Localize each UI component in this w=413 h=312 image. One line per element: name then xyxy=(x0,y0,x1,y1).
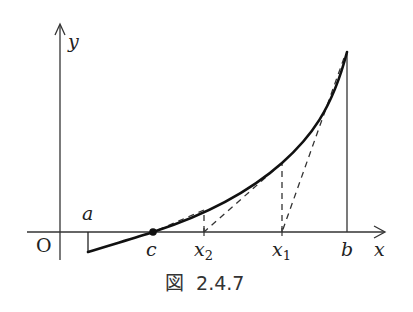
x2-label: x2 xyxy=(194,238,213,263)
x-axis-label: x xyxy=(374,238,385,260)
tangent-at-b xyxy=(282,58,344,232)
newton-method-diagram: y O a c x2 x1 b x 図 2.4.7 xyxy=(0,0,413,312)
y-axis-label: y xyxy=(67,30,79,52)
tangent-lines xyxy=(158,58,344,232)
figure-caption: 図 2.4.7 xyxy=(165,272,244,294)
origin-label: O xyxy=(36,234,52,256)
caption-number: 2.4.7 xyxy=(196,272,244,294)
axes xyxy=(27,24,385,260)
x1-label: x1 xyxy=(272,238,291,263)
caption-prefix: 図 xyxy=(165,272,184,294)
b-label: b xyxy=(341,238,353,260)
root-point-c xyxy=(149,228,157,236)
function-curve xyxy=(88,52,347,252)
a-label: a xyxy=(82,202,93,224)
c-label: c xyxy=(146,238,157,260)
